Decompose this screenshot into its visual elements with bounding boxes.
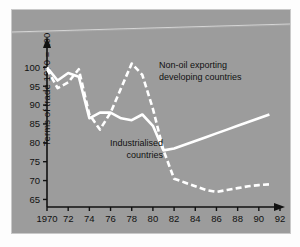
- y-axis-ticks: 65707580859095100: [24, 62, 47, 205]
- non-oil-exporting-label: Non-oil exportingdeveloping countries: [159, 60, 242, 82]
- annotation-line: Non-oil exporting: [159, 60, 227, 70]
- y-tick-label: 75: [29, 156, 40, 167]
- x-tick-label: 82: [169, 213, 180, 224]
- chart-canvas: 65707580859095100 1970727476788082848688…: [12, 10, 290, 233]
- annotation-line: developing countries: [159, 72, 242, 82]
- annotation-group: Non-oil exportingdeveloping countriesInd…: [110, 60, 242, 160]
- industrialised-label: Industrialisedcountries: [110, 138, 164, 160]
- x-tick-label: 78: [126, 213, 137, 224]
- x-tick-label: 92: [275, 213, 286, 224]
- x-tick-label: 72: [63, 213, 74, 224]
- x-tick-label: 84: [190, 213, 201, 224]
- y-tick-label: 100: [24, 62, 40, 73]
- y-tick-label: 65: [29, 194, 40, 205]
- x-tick-label: 90: [254, 213, 265, 224]
- data-series-group: [47, 64, 269, 192]
- x-tick-label: 86: [211, 213, 222, 224]
- x-axis: [47, 203, 285, 211]
- x-axis-ticks: 19707274767880828486889092: [36, 207, 285, 224]
- x-tick-label: 1970: [36, 213, 57, 224]
- x-tick-label: 80: [148, 213, 159, 224]
- y-tick-label: 85: [29, 118, 40, 129]
- x-tick-label: 74: [84, 213, 95, 224]
- y-tick-label: 95: [29, 81, 40, 92]
- y-tick-label: 80: [29, 137, 40, 148]
- y-tick-label: 70: [29, 175, 40, 186]
- annotation-line: countries: [126, 150, 163, 160]
- chart-screenshot: Terms of trade 1970 = 100 65707580859095…: [0, 0, 300, 247]
- y-axis: [43, 37, 51, 207]
- x-tick-label: 76: [105, 213, 116, 224]
- chart-plate: Terms of trade 1970 = 100 65707580859095…: [12, 10, 290, 233]
- x-tick-label: 88: [232, 213, 243, 224]
- y-tick-label: 90: [29, 99, 40, 110]
- annotation-line: Industrialised: [110, 138, 163, 148]
